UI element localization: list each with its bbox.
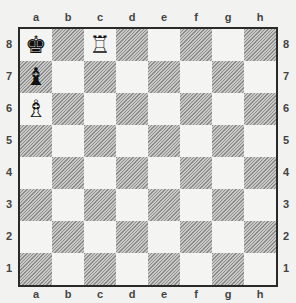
rank-label-3: 3: [2, 198, 16, 210]
square-g7[interactable]: [212, 61, 244, 93]
rank-label-8: 8: [279, 38, 293, 50]
square-e4[interactable]: [148, 157, 180, 189]
file-label-g: g: [212, 288, 244, 300]
square-b4[interactable]: [52, 157, 84, 189]
square-a4[interactable]: [20, 157, 52, 189]
rank-label-1: 1: [279, 262, 293, 274]
square-e6[interactable]: [148, 93, 180, 125]
chess-board[interactable]: ♚♖♝♗: [18, 27, 278, 287]
square-b6[interactable]: [52, 93, 84, 125]
rank-label-4: 4: [2, 166, 16, 178]
square-b3[interactable]: [52, 189, 84, 221]
square-a6[interactable]: ♗: [20, 93, 52, 125]
rank-label-6: 6: [279, 102, 293, 114]
square-d4[interactable]: [116, 157, 148, 189]
rank-label-7: 7: [279, 70, 293, 82]
rank-label-3: 3: [279, 198, 293, 210]
rank-label-1: 1: [2, 262, 16, 274]
square-d1[interactable]: [116, 253, 148, 285]
square-b5[interactable]: [52, 125, 84, 157]
file-label-e: e: [148, 11, 180, 23]
square-g1[interactable]: [212, 253, 244, 285]
square-c8[interactable]: ♖: [84, 29, 116, 61]
black-king-icon[interactable]: ♚: [25, 29, 47, 61]
rank-label-8: 8: [2, 38, 16, 50]
square-e5[interactable]: [148, 125, 180, 157]
square-e1[interactable]: [148, 253, 180, 285]
rank-label-7: 7: [2, 70, 16, 82]
square-c6[interactable]: [84, 93, 116, 125]
square-f6[interactable]: [180, 93, 212, 125]
square-h4[interactable]: [244, 157, 276, 189]
file-label-h: h: [244, 288, 276, 300]
square-h1[interactable]: [244, 253, 276, 285]
file-label-b: b: [52, 288, 84, 300]
square-b7[interactable]: [52, 61, 84, 93]
square-d6[interactable]: [116, 93, 148, 125]
square-c5[interactable]: [84, 125, 116, 157]
white-bishop-icon[interactable]: ♗: [25, 93, 47, 125]
square-g2[interactable]: [212, 221, 244, 253]
square-b2[interactable]: [52, 221, 84, 253]
file-label-f: f: [180, 11, 212, 23]
square-d7[interactable]: [116, 61, 148, 93]
square-a1[interactable]: [20, 253, 52, 285]
white-rook-icon[interactable]: ♖: [89, 29, 111, 61]
square-c3[interactable]: [84, 189, 116, 221]
square-d5[interactable]: [116, 125, 148, 157]
square-g6[interactable]: [212, 93, 244, 125]
square-c7[interactable]: [84, 61, 116, 93]
rank-label-2: 2: [279, 230, 293, 242]
file-label-f: f: [180, 288, 212, 300]
square-f8[interactable]: [180, 29, 212, 61]
rank-label-5: 5: [279, 134, 293, 146]
file-label-a: a: [20, 11, 52, 23]
square-c2[interactable]: [84, 221, 116, 253]
square-g5[interactable]: [212, 125, 244, 157]
square-a7[interactable]: ♝: [20, 61, 52, 93]
rank-label-2: 2: [2, 230, 16, 242]
square-a3[interactable]: [20, 189, 52, 221]
square-g4[interactable]: [212, 157, 244, 189]
square-g3[interactable]: [212, 189, 244, 221]
square-e2[interactable]: [148, 221, 180, 253]
square-e7[interactable]: [148, 61, 180, 93]
square-b8[interactable]: [52, 29, 84, 61]
square-d2[interactable]: [116, 221, 148, 253]
rank-label-5: 5: [2, 134, 16, 146]
rank-label-4: 4: [279, 166, 293, 178]
square-h6[interactable]: [244, 93, 276, 125]
square-f2[interactable]: [180, 221, 212, 253]
file-label-b: b: [52, 11, 84, 23]
square-h5[interactable]: [244, 125, 276, 157]
square-h2[interactable]: [244, 221, 276, 253]
square-f1[interactable]: [180, 253, 212, 285]
file-label-d: d: [116, 11, 148, 23]
square-f3[interactable]: [180, 189, 212, 221]
square-g8[interactable]: [212, 29, 244, 61]
square-c4[interactable]: [84, 157, 116, 189]
square-h8[interactable]: [244, 29, 276, 61]
file-label-a: a: [20, 288, 52, 300]
square-b1[interactable]: [52, 253, 84, 285]
file-label-h: h: [244, 11, 276, 23]
file-label-d: d: [116, 288, 148, 300]
square-f4[interactable]: [180, 157, 212, 189]
square-d8[interactable]: [116, 29, 148, 61]
square-a2[interactable]: [20, 221, 52, 253]
file-label-g: g: [212, 11, 244, 23]
square-f7[interactable]: [180, 61, 212, 93]
square-e3[interactable]: [148, 189, 180, 221]
file-label-c: c: [84, 11, 116, 23]
square-e8[interactable]: [148, 29, 180, 61]
square-f5[interactable]: [180, 125, 212, 157]
square-d3[interactable]: [116, 189, 148, 221]
file-label-c: c: [84, 288, 116, 300]
file-label-e: e: [148, 288, 180, 300]
square-c1[interactable]: [84, 253, 116, 285]
square-a5[interactable]: [20, 125, 52, 157]
square-h3[interactable]: [244, 189, 276, 221]
black-bishop-icon[interactable]: ♝: [25, 61, 47, 93]
square-a8[interactable]: ♚: [20, 29, 52, 61]
square-h7[interactable]: [244, 61, 276, 93]
